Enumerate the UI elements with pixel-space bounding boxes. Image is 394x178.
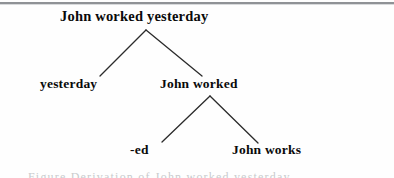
tree-node-ed: -ed (130, 143, 149, 157)
edge-john-worked-to-ed (162, 96, 210, 142)
caption-partial-text: Figure Derivation of John worked yesterd… (28, 170, 368, 178)
tree-node-yesterday: yesterday (40, 77, 97, 91)
tree-node-john-worked: John worked (160, 77, 238, 91)
tree-node-john-works: John works (232, 143, 301, 157)
tree-node-root: John worked yesterday (60, 9, 208, 24)
edge-john-worked-to-john-works (210, 96, 258, 143)
edge-root-to-yesterday (100, 30, 146, 76)
edge-root-to-john-worked (146, 30, 202, 76)
figure-container: John worked yesterday yesterday John wor… (0, 0, 394, 178)
